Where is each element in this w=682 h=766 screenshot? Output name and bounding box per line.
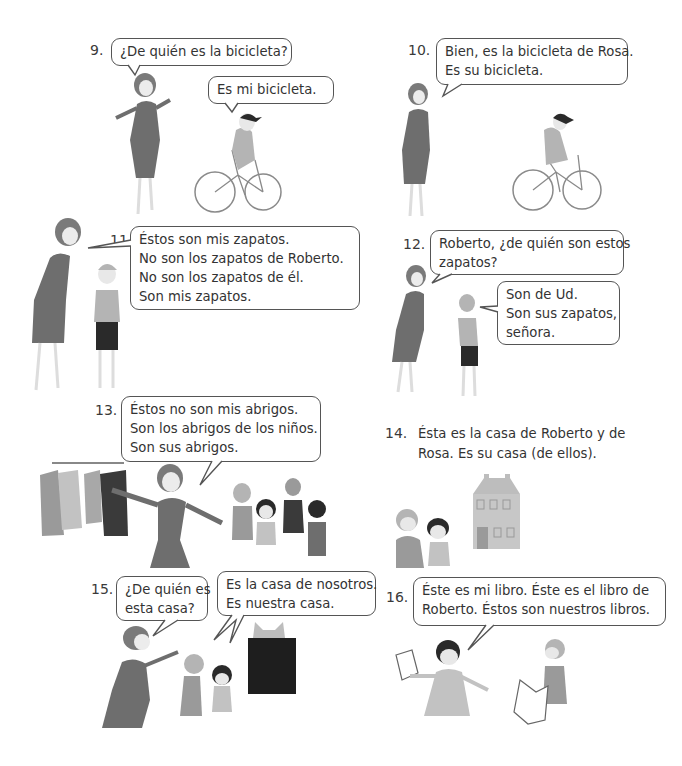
girl-and-boy-with-books-icon bbox=[0, 0, 682, 766]
